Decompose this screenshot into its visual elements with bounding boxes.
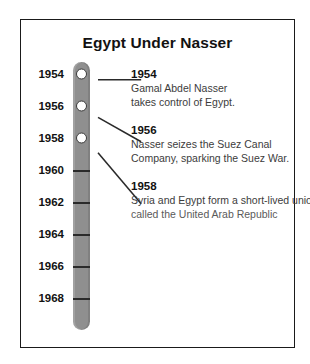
event-text-line: Syria and Egypt form a short-lived union <box>131 194 310 208</box>
axis-year-label: 1964 <box>38 228 64 240</box>
event-text-line: Gamal Abdel Nasser <box>131 82 235 96</box>
event-text-line: called the United Arab Republic <box>131 208 310 222</box>
axis-year-label: 1958 <box>38 132 64 144</box>
axis-year-label: 1966 <box>38 260 64 272</box>
event-marker-1958[interactable] <box>76 133 87 144</box>
page-title: Egypt Under Nasser <box>21 34 294 52</box>
event-entry-1958: 1958 Syria and Egypt form a short-lived … <box>131 180 310 221</box>
event-text-line: Company, sparking the Suez War. <box>131 152 289 166</box>
axis-tick-1964 <box>73 234 90 236</box>
axis-year-label: 1954 <box>38 68 64 80</box>
axis-tick-1960 <box>73 170 90 172</box>
axis-year-label: 1960 <box>38 164 64 176</box>
axis-year-label: 1962 <box>38 196 64 208</box>
axis-tick-1968 <box>73 298 90 300</box>
event-entry-1954: 1954 Gamal Abdel Nasser takes control of… <box>131 68 235 109</box>
event-year: 1954 <box>131 68 235 80</box>
axis-year-label: 1968 <box>38 292 64 304</box>
event-marker-1954[interactable] <box>76 69 87 80</box>
event-marker-1956[interactable] <box>76 101 87 112</box>
axis-year-label: 1956 <box>38 100 64 112</box>
event-year: 1958 <box>131 180 310 192</box>
event-text-line: takes control of Egypt. <box>131 96 235 110</box>
axis-tick-1962 <box>73 202 90 204</box>
event-year: 1956 <box>131 124 289 136</box>
timeline-frame: Egypt Under Nasser 1954 1956 1958 1960 1… <box>20 19 295 348</box>
event-text-line: Nasser seizes the Suez Canal <box>131 138 289 152</box>
event-entry-1956: 1956 Nasser seizes the Suez Canal Compan… <box>131 124 289 165</box>
axis-tick-1966 <box>73 266 90 268</box>
